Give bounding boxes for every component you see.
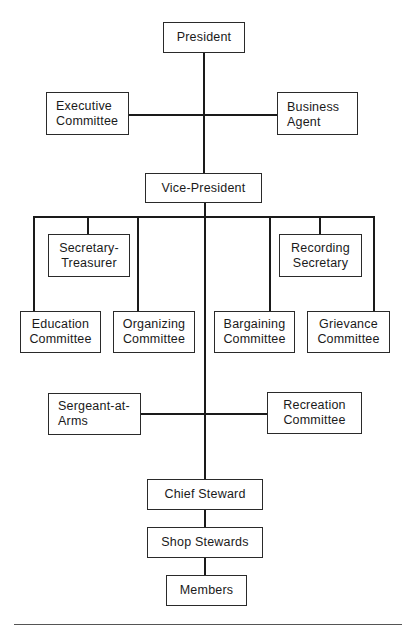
connector-sergeant-recreation	[141, 413, 267, 415]
connector-secretary-treasurer	[87, 216, 89, 234]
node-bargaining-committee: Bargaining Committee	[214, 311, 295, 353]
connector-vp-trunk	[204, 203, 206, 479]
connector-chief-shop	[204, 510, 206, 527]
node-label: Chief Steward	[164, 487, 245, 502]
node-label: Members	[180, 583, 234, 598]
node-label: Organizing Committee	[123, 317, 185, 347]
node-label: Sergeant-at- Arms	[58, 399, 130, 429]
connector-exec-business	[129, 114, 277, 116]
node-label: Grievance Committee	[317, 317, 379, 347]
node-business-agent: Business Agent	[277, 92, 358, 135]
node-label: Bargaining Committee	[223, 317, 285, 347]
node-vice-president: Vice-President	[145, 173, 262, 203]
node-secretary-treasurer: Secretary- Treasurer	[48, 234, 130, 277]
node-sergeant-at-arms: Sergeant-at- Arms	[48, 393, 141, 435]
node-recreation-committee: Recreation Committee	[267, 392, 362, 434]
node-executive-committee: Executive Committee	[46, 92, 129, 135]
connector-grievance	[373, 216, 375, 311]
node-label: Shop Stewards	[161, 535, 248, 550]
node-label: President	[177, 30, 232, 45]
node-label: Recreation Committee	[283, 398, 345, 428]
node-label: Secretary- Treasurer	[59, 241, 119, 271]
connector-shop-members	[204, 558, 206, 575]
connector-bargaining	[269, 216, 271, 311]
node-members: Members	[166, 575, 247, 606]
node-grievance-committee: Grievance Committee	[307, 311, 390, 353]
node-label: Vice-President	[162, 181, 246, 196]
node-label: Education Committee	[29, 317, 91, 347]
connector-education	[33, 216, 35, 311]
node-chief-steward: Chief Steward	[147, 479, 263, 510]
node-shop-stewards: Shop Stewards	[147, 527, 263, 558]
node-label: Recording Secretary	[291, 241, 350, 271]
node-president: President	[163, 22, 245, 53]
bottom-rule	[14, 624, 402, 625]
node-organizing-committee: Organizing Committee	[113, 311, 195, 353]
node-label: Business Agent	[287, 100, 339, 130]
node-education-committee: Education Committee	[20, 311, 101, 353]
node-recording-secretary: Recording Secretary	[279, 234, 362, 277]
node-label: Executive Committee	[56, 99, 118, 129]
connector-recording-secretary	[319, 216, 321, 234]
connector-organizing	[137, 216, 139, 311]
connector-president-trunk	[203, 53, 205, 173]
connector-vp-bar	[33, 216, 375, 218]
